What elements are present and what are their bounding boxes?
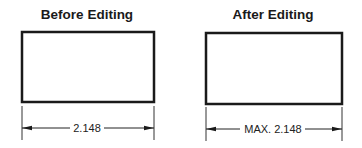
before-rectangle bbox=[22, 32, 154, 102]
after-panel: MAX. 2.148 bbox=[206, 33, 342, 141]
after-rectangle bbox=[206, 33, 342, 104]
before-panel: 2.148 bbox=[22, 32, 154, 140]
diagram-canvas: 2.148 MAX. 2.148 bbox=[0, 0, 362, 148]
after-dimension-text: MAX. 2.148 bbox=[244, 123, 301, 135]
before-dimension-text: 2.148 bbox=[73, 122, 101, 134]
